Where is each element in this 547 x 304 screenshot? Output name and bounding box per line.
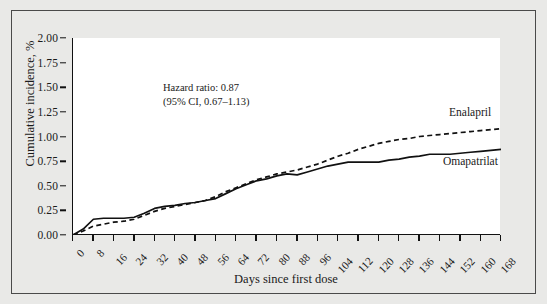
series-label-enalapril: Enalapril bbox=[449, 106, 491, 118]
y-tick-mark bbox=[60, 111, 66, 112]
annotation-line-2: (95% CI, 0.67–1.13) bbox=[163, 95, 250, 109]
y-tick-label: 1.00 bbox=[37, 131, 58, 143]
y-tick-mark bbox=[60, 87, 66, 88]
x-tick-mark bbox=[337, 235, 338, 241]
x-tick-mark bbox=[215, 235, 216, 241]
x-tick-mark bbox=[174, 235, 175, 241]
y-tick-mark bbox=[60, 185, 66, 186]
figure-container: 0.000.250.500.751.001.251.501.752.00 Cum… bbox=[0, 0, 547, 304]
y-tick-label: 0.00 bbox=[37, 229, 58, 241]
y-tick-label: 1.25 bbox=[37, 106, 58, 118]
series-label-omapatrilat: Omapatrilat bbox=[443, 155, 498, 167]
x-tick-mark bbox=[378, 235, 379, 241]
x-tick-mark bbox=[296, 235, 297, 241]
plot-area: Hazard ratio: 0.87 (95% CI, 0.67–1.13) bbox=[72, 38, 500, 235]
y-tick-mark bbox=[60, 160, 66, 161]
x-tick-mark bbox=[500, 235, 501, 241]
y-tick-mark bbox=[60, 234, 66, 235]
x-tick-mark bbox=[72, 235, 73, 241]
x-tick-mark bbox=[133, 235, 134, 241]
x-tick-label: 0 bbox=[78, 243, 91, 255]
x-tick-mark bbox=[235, 235, 236, 241]
x-tick-mark bbox=[317, 235, 318, 241]
x-tick-mark bbox=[113, 235, 114, 241]
x-tick-mark bbox=[398, 235, 399, 241]
x-tick-label: 96 bbox=[324, 243, 340, 259]
hazard-ratio-annotation: Hazard ratio: 0.87 (95% CI, 0.67–1.13) bbox=[163, 81, 250, 109]
x-tick-mark bbox=[357, 235, 358, 241]
series-line-enalapril bbox=[73, 129, 501, 235]
y-axis-title: Cumulative incidence, % bbox=[23, 14, 38, 194]
x-tick-mark bbox=[194, 235, 195, 241]
series-line-omapatrilat bbox=[73, 149, 501, 235]
x-axis-ticks: 0816243240485664728088961041121201281361… bbox=[72, 235, 500, 275]
y-tick-label: 1.75 bbox=[37, 57, 58, 69]
y-tick-mark bbox=[60, 62, 66, 63]
y-tick-mark bbox=[60, 37, 66, 38]
y-tick-label: 2.00 bbox=[37, 32, 58, 44]
y-tick-label: 0.50 bbox=[37, 180, 58, 192]
x-tick-mark bbox=[480, 235, 481, 241]
x-tick-mark bbox=[459, 235, 460, 241]
annotation-line-1: Hazard ratio: 0.87 bbox=[163, 81, 250, 95]
x-tick-mark bbox=[92, 235, 93, 241]
y-tick-mark bbox=[60, 210, 66, 211]
y-tick-label: 1.50 bbox=[37, 81, 58, 93]
x-tick-mark bbox=[439, 235, 440, 241]
y-tick-mark bbox=[60, 136, 66, 137]
y-tick-label: 0.75 bbox=[37, 155, 58, 167]
x-tick-mark bbox=[276, 235, 277, 241]
x-tick-mark bbox=[255, 235, 256, 241]
x-tick-mark bbox=[418, 235, 419, 241]
y-tick-label: 0.25 bbox=[37, 204, 58, 216]
chart-canvas bbox=[73, 38, 501, 235]
x-axis-title: Days since first dose bbox=[72, 272, 500, 287]
x-tick-mark bbox=[154, 235, 155, 241]
x-tick-label: 8 bbox=[98, 243, 111, 255]
